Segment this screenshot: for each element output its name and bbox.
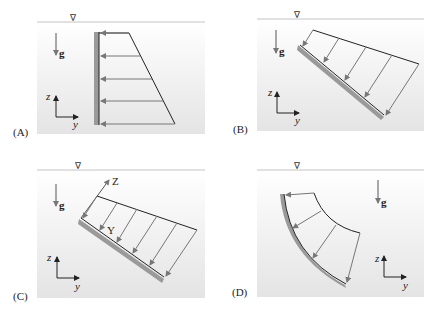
panel-label-c: (C) <box>13 290 28 303</box>
local-y-label: Y <box>107 224 115 236</box>
axis-y-label: y <box>294 114 300 126</box>
panel-label-d: (D) <box>232 286 248 299</box>
gravity-label: g <box>381 196 387 208</box>
free-surface-symbol: ∇ <box>293 161 301 171</box>
panel-b: ∇ g z y (B) <box>233 10 424 136</box>
panel-label-b: (B) <box>233 123 248 136</box>
axis-z-label: z <box>45 90 51 102</box>
gravity-label: g <box>59 199 65 211</box>
free-surface-symbol: ∇ <box>69 13 77 23</box>
free-surface-symbol: ∇ <box>74 161 82 171</box>
axis-y-label: y <box>74 280 80 292</box>
panel-d: ∇ g z y (D) <box>232 161 424 299</box>
figure-canvas: ∇ g z y (A) ∇ g <box>0 0 437 311</box>
axis-z-label: z <box>46 251 52 263</box>
axis-y-label: y <box>72 118 78 130</box>
free-surface-symbol: ∇ <box>293 10 301 20</box>
axis-z-label: z <box>267 86 273 98</box>
water-region <box>257 19 424 131</box>
panel-label-a: (A) <box>13 126 29 139</box>
water-region <box>257 170 424 297</box>
wall <box>94 32 99 125</box>
local-z-label: Z <box>112 175 119 187</box>
axis-z-label: z <box>374 252 380 264</box>
water-region <box>37 170 205 298</box>
panel-a: ∇ g z y (A) <box>13 13 205 139</box>
gravity-label: g <box>279 45 285 57</box>
panel-c: ∇ g Z Y z y (C) <box>13 161 205 303</box>
gravity-label: g <box>59 47 65 59</box>
axis-y-label: y <box>402 279 408 291</box>
